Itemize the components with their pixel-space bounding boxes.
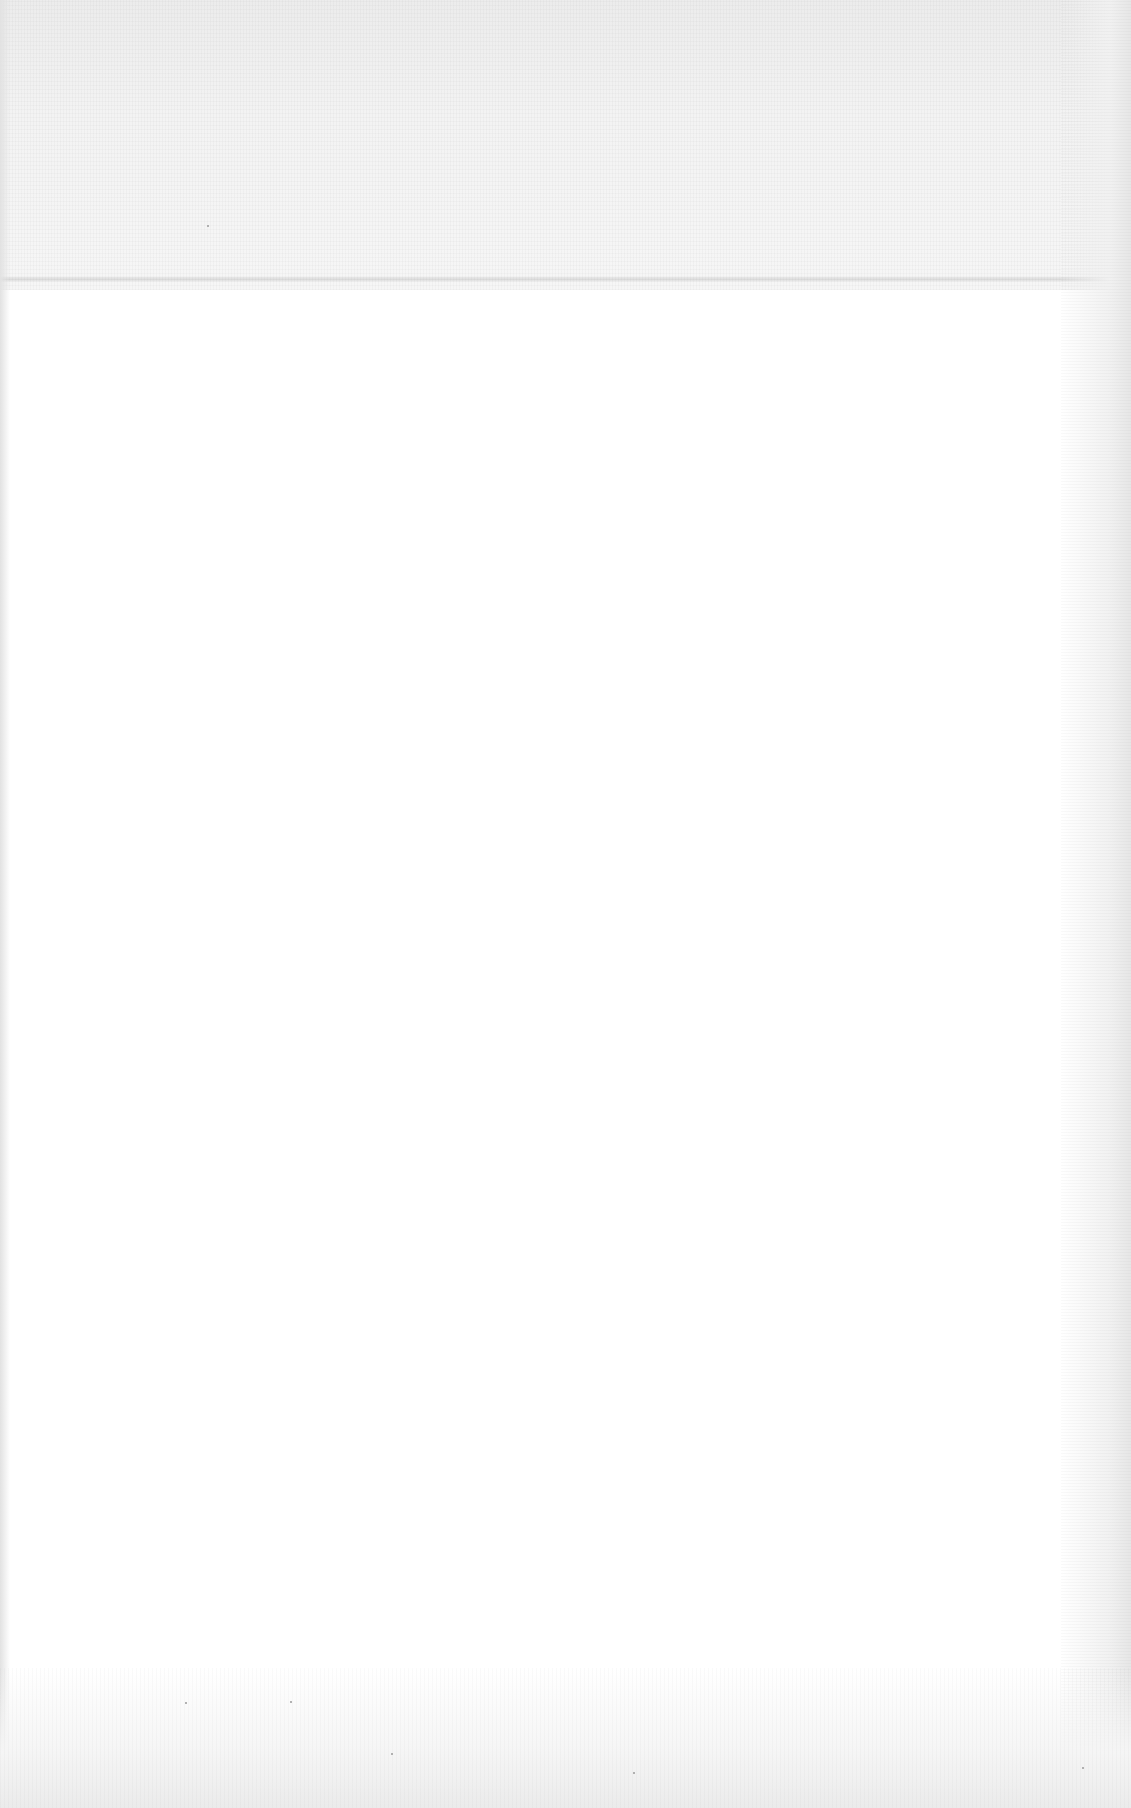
- dust-speck: [185, 1702, 187, 1704]
- scan-noise-top: [0, 0, 1131, 290]
- dust-speck: [207, 225, 209, 227]
- dust-speck: [1082, 1767, 1084, 1769]
- scan-edge-right: [1061, 0, 1131, 1808]
- dust-speck: [633, 1772, 635, 1774]
- dust-speck: [290, 1701, 292, 1703]
- scan-edge-bottom: [0, 1668, 1131, 1808]
- scan-edge-left: [0, 0, 10, 1808]
- scanned-blank-page: [0, 0, 1131, 1808]
- paper-fold-line: [0, 276, 1131, 282]
- dust-speck: [391, 1753, 393, 1755]
